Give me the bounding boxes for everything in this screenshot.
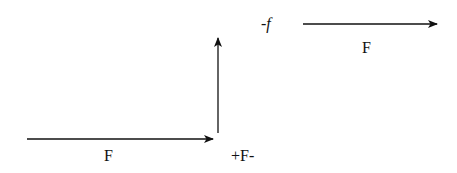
force-diagram — [0, 0, 457, 173]
bottom-force-label: F — [104, 148, 113, 164]
top-force-label: F — [362, 40, 371, 56]
corner-force-label: +F- — [231, 148, 254, 164]
friction-label: -f — [261, 16, 271, 32]
